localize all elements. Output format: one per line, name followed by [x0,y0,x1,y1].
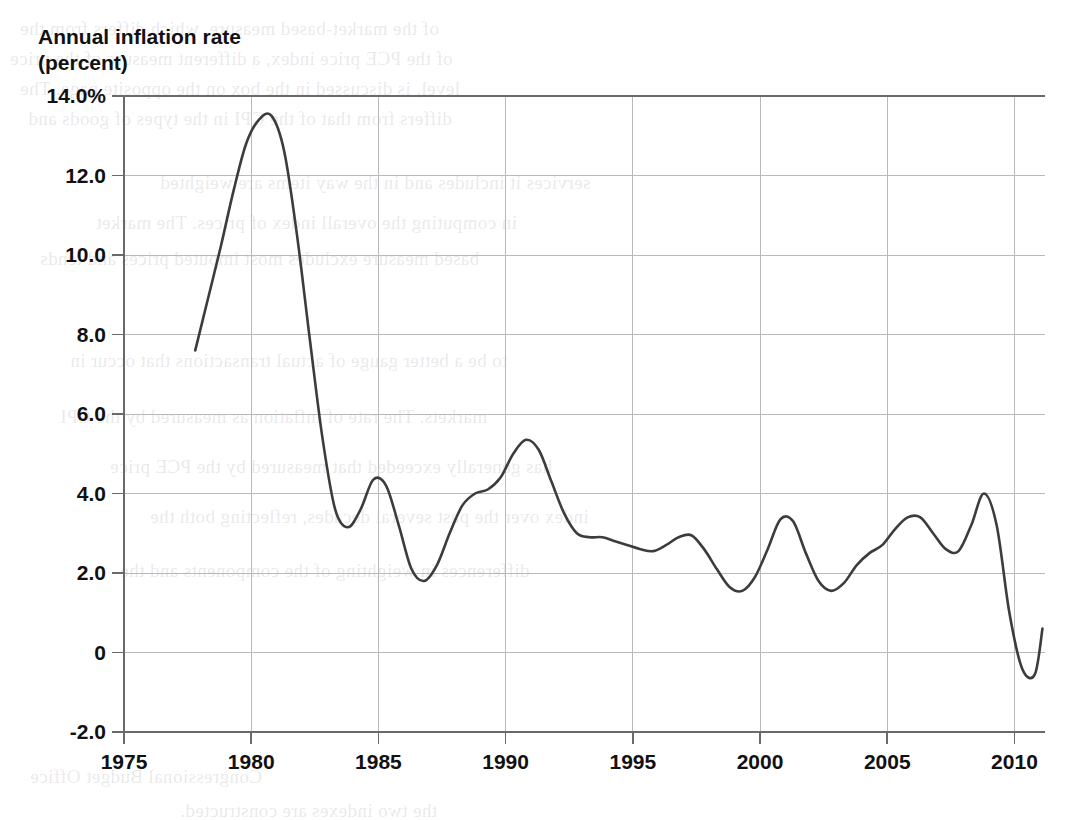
tick-marks [112,96,1014,744]
grid-lines [124,96,1045,732]
plot-area [0,0,1084,820]
data-series-line [195,114,1042,679]
data-series-lines [195,114,1042,679]
inflation-rate-chart-figure: of the market-based measure, which diffe… [0,0,1084,820]
